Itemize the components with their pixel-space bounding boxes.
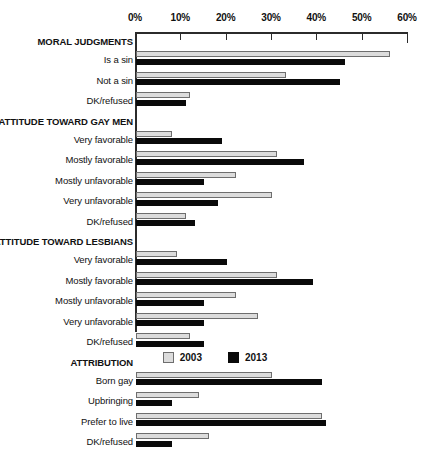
bar-2013: [136, 279, 313, 285]
bar-2013: [136, 379, 322, 385]
bar-pair: [136, 251, 227, 265]
bar-pair: [136, 272, 313, 286]
bar-2013: [136, 320, 204, 326]
bar-2013: [136, 300, 204, 306]
bar-2003: [136, 433, 209, 439]
row-label: Not a sin: [0, 75, 133, 86]
group-label: ATTITUDE TOWARD GAY MEN: [0, 116, 133, 127]
row-label: Mostly unfavorable: [0, 295, 133, 306]
bar-2013: [136, 400, 172, 406]
bar-2013: [136, 220, 195, 226]
bar-2013: [136, 420, 326, 426]
bar-2013: [136, 259, 227, 265]
x-tick-label: 50%: [352, 12, 371, 23]
bar-2003: [136, 251, 177, 257]
chart-row: Mostly unfavorable: [0, 291, 430, 312]
row-label: Upbringing: [0, 395, 133, 406]
row-label: Mostly favorable: [0, 154, 133, 165]
row-label: DK/refused: [0, 436, 133, 447]
x-tick-label: 10%: [171, 12, 190, 23]
x-tick-label: 40%: [307, 12, 326, 23]
bar-pair: [136, 172, 236, 186]
chart-row: Not a sin: [0, 71, 430, 92]
group-label: MORAL JUDGMENTS: [0, 36, 133, 47]
row-label: Very unfavorable: [0, 195, 133, 206]
bar-2003: [136, 372, 272, 378]
row-label: Prefer to live: [0, 416, 133, 427]
chart-row: DK/refused: [0, 332, 430, 353]
bar-2003: [136, 51, 390, 57]
bar-pair: [136, 131, 222, 145]
x-tick-label: 60%: [397, 12, 416, 23]
row-label: Born gay: [0, 375, 133, 386]
chart-row: Very favorable: [0, 250, 430, 271]
bar-2003: [136, 192, 272, 198]
bar-2013: [136, 341, 204, 347]
row-label: Mostly favorable: [0, 275, 133, 286]
legend-label-2013: 2013: [245, 352, 267, 363]
bar-2013: [136, 179, 204, 185]
bar-pair: [136, 372, 322, 386]
chart-row: Mostly favorable: [0, 150, 430, 171]
row-label: Very favorable: [0, 134, 133, 145]
x-tick-label: 0%: [128, 12, 142, 23]
bar-pair: [136, 213, 195, 227]
bar-pair: [136, 313, 258, 327]
bar-pair: [136, 51, 390, 65]
bar-pair: [136, 392, 199, 406]
bar-pair: [136, 433, 209, 447]
bar-pair: [136, 333, 204, 347]
chart-row: Born gay: [0, 371, 430, 392]
legend-label-2003: 2003: [180, 352, 202, 363]
bar-2013: [136, 159, 304, 165]
bar-pair: [136, 92, 190, 106]
legend-item-2013: 2013: [228, 352, 267, 363]
bar-2003: [136, 172, 236, 178]
x-tick-label: 30%: [261, 12, 280, 23]
chart-row: Very favorable: [0, 130, 430, 151]
row-label: Very unfavorable: [0, 316, 133, 327]
bar-pair: [136, 151, 304, 165]
chart-row: Mostly favorable: [0, 271, 430, 292]
row-label: Very favorable: [0, 254, 133, 265]
bar-2003: [136, 151, 277, 157]
chart-row: DK/refused: [0, 432, 430, 451]
bar-2013: [136, 138, 222, 144]
chart-row: DK/refused: [0, 212, 430, 233]
chart-row: Mostly unfavorable: [0, 171, 430, 192]
bar-2003: [136, 292, 236, 298]
row-label: DK/refused: [0, 95, 133, 106]
bar-2013: [136, 441, 172, 447]
bar-pair: [136, 192, 272, 206]
chart-row: Prefer to live: [0, 412, 430, 433]
bar-2003: [136, 213, 186, 219]
bar-pair: [136, 292, 236, 306]
chart-rows: MORAL JUDGMENTSIs a sinNot a sinDK/refus…: [0, 32, 430, 451]
bar-2013: [136, 59, 345, 65]
bar-2003: [136, 313, 258, 319]
bar-2003: [136, 272, 277, 278]
group-header: MORAL JUDGMENTS: [0, 32, 430, 50]
bar-2013: [136, 100, 186, 106]
x-tick-label: 20%: [216, 12, 235, 23]
bar-2003: [136, 92, 190, 98]
bar-2003: [136, 413, 322, 419]
chart-row: Is a sin: [0, 50, 430, 71]
row-label: Is a sin: [0, 54, 133, 65]
chart-row: Very unfavorable: [0, 312, 430, 333]
chart-row: DK/refused: [0, 91, 430, 112]
row-label: DK/refused: [0, 336, 133, 347]
group-label: ATTITUDE TOWARD LESBIANS: [0, 236, 133, 247]
group-header: ATTITUDE TOWARD GAY MEN: [0, 112, 430, 130]
row-label: DK/refused: [0, 216, 133, 227]
chart-legend: 2003 2013: [0, 352, 430, 363]
bar-2003: [136, 392, 199, 398]
bar-2003: [136, 72, 286, 78]
chart-row: Upbringing: [0, 391, 430, 412]
bar-2003: [136, 333, 190, 339]
legend-swatch-2003: [163, 352, 174, 363]
bar-pair: [136, 413, 326, 427]
legend-item-2003: 2003: [163, 352, 202, 363]
bar-2003: [136, 131, 172, 137]
